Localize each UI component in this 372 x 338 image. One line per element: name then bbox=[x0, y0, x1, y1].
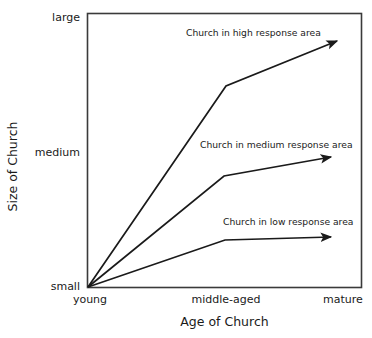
x-axis-title: Age of Church bbox=[87, 314, 362, 329]
y-axis-tick-large: large bbox=[14, 11, 80, 24]
y-axis-tick-small: small bbox=[14, 280, 80, 293]
x-axis-tick-mature: mature bbox=[315, 293, 371, 306]
series-label-medium: Church in medium response area bbox=[200, 139, 353, 150]
plot-frame bbox=[88, 14, 362, 288]
y-axis-tick-medium: medium bbox=[14, 146, 80, 159]
series-label-high: Church in high response area bbox=[186, 27, 321, 38]
series-label-low: Church in low response area bbox=[223, 216, 353, 227]
x-axis-tick-middle-aged: middle-aged bbox=[181, 293, 271, 306]
chart-figure: large medium small young middle-aged mat… bbox=[0, 0, 372, 338]
y-axis-title: Size of Church bbox=[5, 92, 20, 242]
x-axis-tick-young: young bbox=[62, 293, 118, 306]
